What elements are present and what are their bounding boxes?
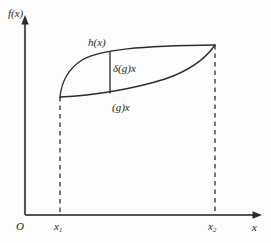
figure-canvas xyxy=(0,0,271,243)
lower-curve-label: (g)x xyxy=(112,102,130,113)
y-axis-label: f(x) xyxy=(8,8,23,19)
delta-segment-label: δ(g)x xyxy=(113,63,136,74)
x2-tick-label: x2 xyxy=(208,221,216,234)
x1-tick-label: x1 xyxy=(54,221,62,234)
x2-tick-subscript: 2 xyxy=(213,226,216,233)
lower-curve-gx xyxy=(60,45,215,97)
x-axis-label: x xyxy=(252,222,257,233)
upper-curve-label: h(x) xyxy=(88,37,106,48)
origin-label: O xyxy=(16,221,24,232)
x1-tick-subscript: 1 xyxy=(59,226,62,233)
math-figure: f(x) h(x) δ(g)x (g)x O x1 x2 x xyxy=(0,0,271,243)
x-axis-arrowhead xyxy=(253,211,263,218)
upper-curve-hx xyxy=(60,45,215,97)
